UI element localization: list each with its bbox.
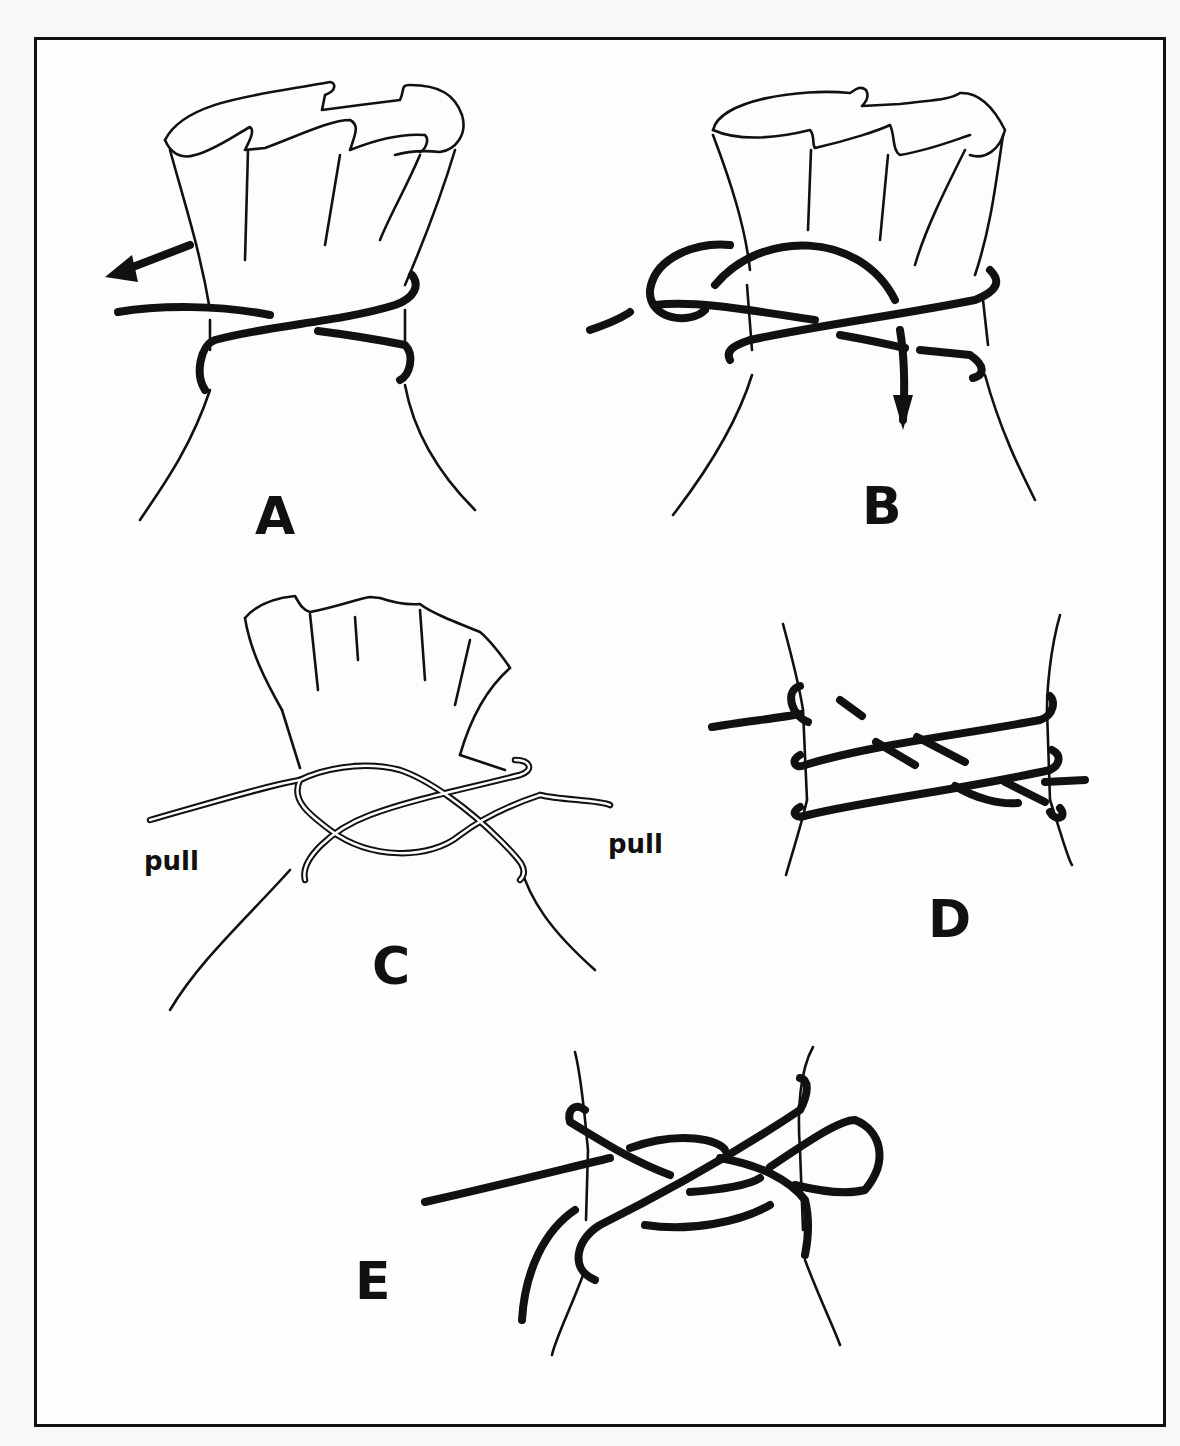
panel-label-b: B — [862, 480, 902, 532]
pull-annotation-left: pull — [144, 848, 199, 874]
panel-a-drawing — [105, 82, 475, 520]
scanned-page: A B C D E pull pull — [0, 0, 1180, 1446]
panel-e-drawing — [425, 1047, 879, 1355]
panel-b-drawing — [590, 88, 1035, 515]
pull-annotation-right: pull — [608, 831, 663, 857]
panel-label-e: E — [355, 1255, 391, 1307]
panel-label-c: C — [372, 940, 410, 992]
knot-diagram — [0, 0, 1180, 1446]
panel-label-d: D — [928, 893, 971, 945]
panel-label-a: A — [255, 490, 295, 542]
double-cord — [150, 760, 610, 880]
panel-d-drawing — [712, 615, 1085, 875]
